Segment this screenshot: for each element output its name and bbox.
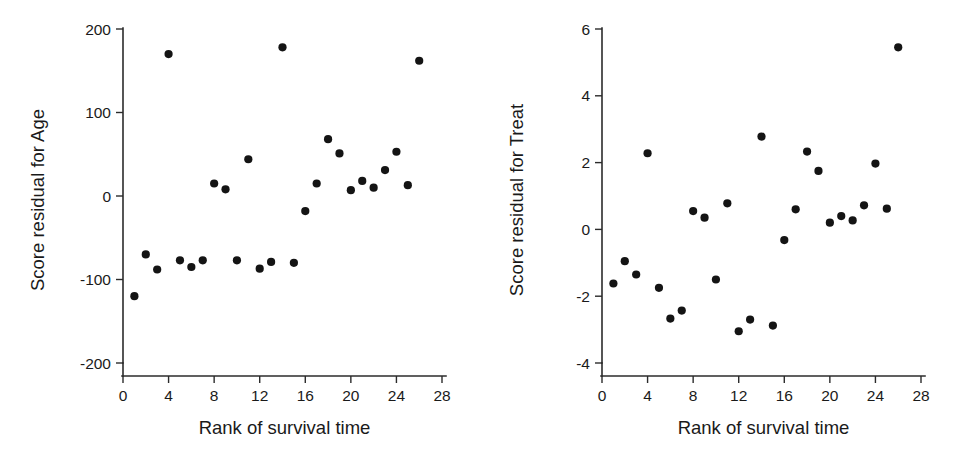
data-point [404,181,412,189]
data-point [689,207,697,215]
data-point [678,306,686,314]
data-point [735,327,743,335]
scatter-plot-age: -200-10001002000481216202428Rank of surv… [0,0,478,462]
y-axis-title: Score residual for Treat [506,104,527,296]
data-point [792,205,800,213]
data-point [871,160,879,168]
data-point [883,205,891,213]
data-point [746,315,754,323]
data-point [301,207,309,215]
data-point [894,43,902,51]
x-tick-label-1: 4 [643,387,652,404]
y-tick-label-0: -4 [576,355,590,372]
data-point [164,50,172,58]
data-point [324,135,332,143]
data-point [278,43,286,51]
scatter-plot-treat: -4-202460481216202428Rank of survival ti… [479,0,957,462]
data-point [723,199,731,207]
data-point [632,270,640,278]
y-tick-label-4: 200 [85,21,111,38]
data-point [780,236,788,244]
axes-age [116,28,446,383]
x-axis-title: Rank of survival time [199,417,371,438]
y-tick-label-5: 6 [581,21,590,38]
data-point [381,166,389,174]
x-tick-label-0: 0 [119,387,128,404]
x-tick-label-7: 28 [433,387,450,404]
y-tick-label-2: 0 [581,221,590,238]
axes-treat [595,28,925,383]
data-point [849,216,857,224]
x-tick-label-4: 16 [297,387,314,404]
data-point [370,184,378,192]
data-point [199,256,207,264]
data-point [130,292,138,300]
data-point [153,265,161,273]
data-point [655,284,663,292]
x-tick-label-2: 8 [210,387,219,404]
data-point [347,186,355,194]
data-point [837,212,845,220]
data-point [757,132,765,140]
y-axis-title: Score residual for Age [27,109,48,291]
x-tick-label-5: 20 [821,387,839,404]
x-tick-label-6: 24 [867,387,885,404]
data-point [803,147,811,155]
x-tick-label-0: 0 [598,387,607,404]
data-point [313,179,321,187]
y-tick-label-0: -200 [80,355,111,372]
data-point [221,185,229,193]
data-point [210,179,218,187]
data-point [256,265,264,273]
data-point [415,57,423,65]
data-point [176,256,184,264]
data-point [358,177,366,185]
residual-scatter-figure: -200-10001002000481216202428Rank of surv… [0,0,957,462]
points-treat [609,43,902,335]
x-tick-label-5: 20 [342,387,360,404]
x-tick-label-1: 4 [164,387,173,404]
x-tick-label-4: 16 [776,387,793,404]
data-point [244,155,252,163]
data-point [860,201,868,209]
points-age [130,43,423,300]
data-point [142,250,150,258]
data-point [826,219,834,227]
y-tick-label-1: -2 [576,288,590,305]
y-tick-label-4: 4 [581,87,590,104]
data-point [700,214,708,222]
data-point [187,263,195,271]
data-point [609,279,617,287]
panel-score-residual-treat: -4-202460481216202428Rank of survival ti… [479,0,957,462]
x-tick-label-3: 12 [251,387,268,404]
data-point [621,257,629,265]
x-tick-label-2: 8 [689,387,698,404]
data-point [335,149,343,157]
data-point [233,256,241,264]
data-point [290,259,298,267]
y-tick-label-2: 0 [102,188,111,205]
panel-score-residual-age: -200-10001002000481216202428Rank of surv… [0,0,478,462]
x-axis-title: Rank of survival time [678,417,850,438]
x-tick-label-3: 12 [730,387,747,404]
data-point [643,149,651,157]
data-point [712,275,720,283]
data-point [769,321,777,329]
data-point [267,258,275,266]
x-tick-label-7: 28 [912,387,929,404]
x-tick-label-6: 24 [388,387,406,404]
y-tick-label-3: 2 [581,154,590,171]
data-point [392,148,400,156]
y-tick-label-1: -100 [80,271,111,288]
data-point [666,314,674,322]
data-point [814,167,822,175]
y-tick-label-3: 100 [85,104,111,121]
